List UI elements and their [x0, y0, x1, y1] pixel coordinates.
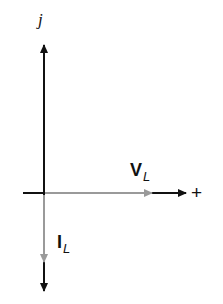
current-phasor-label: IL	[57, 232, 70, 253]
imaginary-axis-label: j	[38, 10, 43, 30]
current-subscript: L	[63, 241, 70, 256]
voltage-symbol: V	[130, 160, 142, 180]
current-symbol: I	[57, 232, 62, 252]
phasor-diagram	[0, 0, 223, 304]
voltage-phasor-label: VL	[130, 160, 150, 181]
real-axis-positive-label: +	[191, 182, 202, 204]
voltage-subscript: L	[143, 169, 150, 184]
